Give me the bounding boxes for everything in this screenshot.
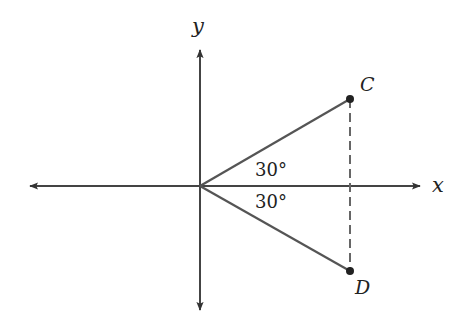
point-d-label: D	[354, 276, 370, 298]
angle-label-upper: 30°	[255, 159, 287, 180]
x-axis-label: x	[432, 173, 444, 197]
y-axis-label: y	[191, 14, 205, 38]
point-c-label: C	[360, 73, 375, 95]
coordinate-diagram: x y C D 30° 30°	[0, 0, 470, 332]
point-c	[346, 95, 354, 103]
angle-label-lower: 30°	[255, 191, 287, 212]
point-d	[346, 267, 354, 275]
